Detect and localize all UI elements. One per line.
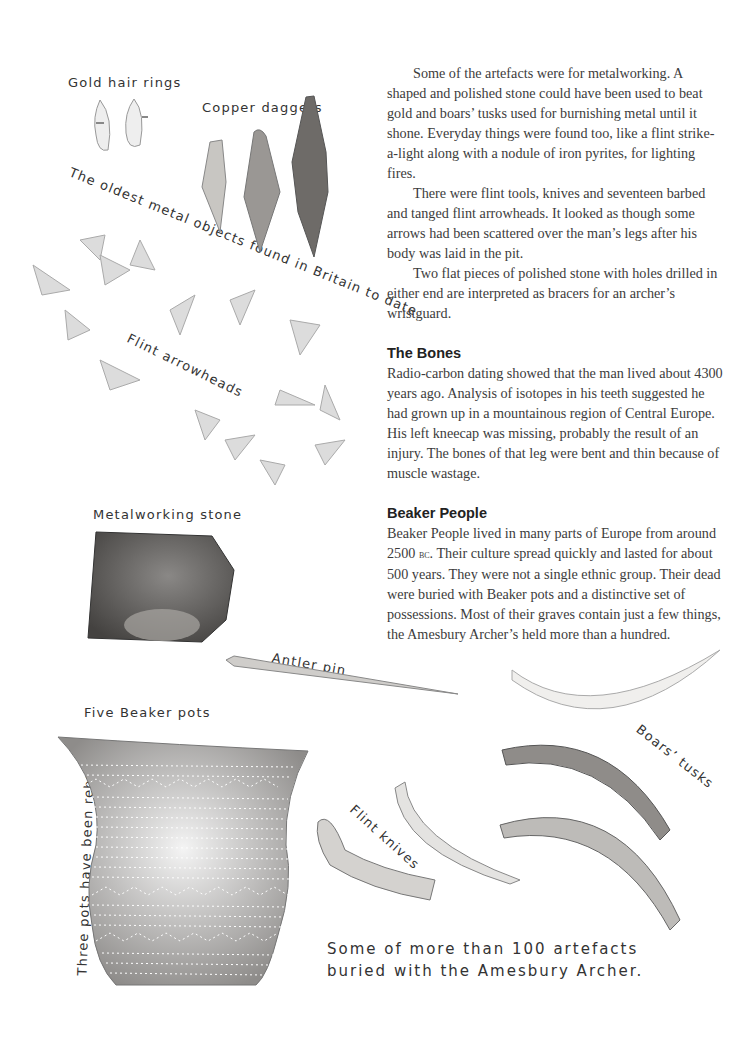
beaker-pot-illustration: [56, 735, 311, 1005]
label-five-beaker-pots: Five Beaker pots: [84, 705, 211, 720]
paragraph-bracers: Two flat pieces of polished stone with h…: [387, 263, 723, 323]
article-text: Some of the artefacts were for metalwork…: [387, 63, 723, 644]
paragraph-the-bones: Radio-carbon dating showed that the man …: [387, 363, 723, 483]
gold-hair-rings-illustration: [88, 95, 158, 157]
paragraph-flint-tools: There were flint tools, knives and seven…: [387, 183, 723, 263]
flint-arrowheads-illustration: [30, 210, 350, 500]
label-gold-hair-rings: Gold hair rings: [68, 75, 182, 90]
metalworking-stone-illustration: [84, 530, 239, 650]
caption-line-1: Some of more than 100 artefacts: [327, 940, 638, 958]
flint-knives-illustration: [310, 780, 530, 910]
caption-line-2: buried with the Amesbury Archer.: [327, 962, 643, 980]
era-bc: bc: [419, 547, 430, 561]
antler-pin-illustration: [222, 650, 462, 700]
paragraph-metalworking: Some of the artefacts were for metalwork…: [387, 63, 723, 183]
heading-beaker-people: Beaker People: [387, 503, 723, 523]
heading-the-bones: The Bones: [387, 343, 723, 363]
beaker-text-end: . Their culture spread quickly and laste…: [387, 545, 721, 642]
paragraph-beaker-people: Beaker People lived in many parts of Eur…: [387, 523, 723, 644]
label-metalworking-stone: Metalworking stone: [93, 507, 242, 522]
